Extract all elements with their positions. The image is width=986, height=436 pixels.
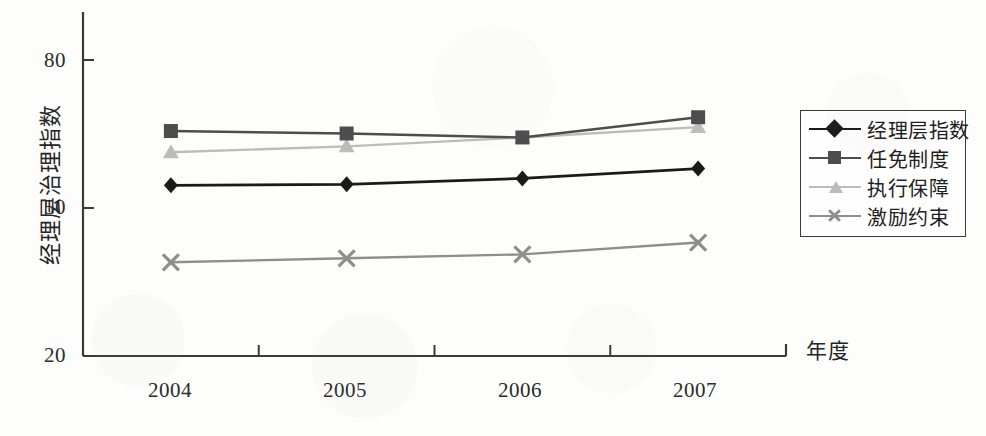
legend-marker-triangle-icon (809, 177, 861, 197)
legend-label-2: 执行保障 (867, 173, 949, 202)
series-line (171, 169, 698, 186)
legend-marker-square-icon (809, 148, 861, 168)
series-1 (164, 161, 705, 194)
x-tick-label-2007: 2007 (650, 378, 740, 403)
legend-item-1: 任免制度 (809, 145, 949, 171)
legend-item-3: 激励约束 (809, 203, 949, 229)
x-tick-label-2004: 2004 (125, 378, 215, 403)
data-point-marker (340, 176, 354, 192)
y-axis-title: 经理层治理指数 (32, 74, 64, 294)
x-axis-title: 年度 (806, 334, 850, 364)
data-point-marker (515, 130, 529, 144)
legend-label-1: 任免制度 (867, 144, 949, 173)
y-tick-label-80: 80 (6, 48, 66, 73)
legend-marker-diamond-icon (809, 119, 861, 139)
y-tick-label-20: 20 (6, 343, 66, 368)
chart-figure: 80 50 20 2004 2005 2006 2007 经理层治理指数 年度 … (0, 0, 986, 436)
legend-item-0: 经理层指数 (809, 116, 970, 142)
data-point-marker (164, 177, 178, 193)
legend-label-0: 经理层指数 (867, 115, 970, 144)
series-line (171, 117, 698, 137)
legend-label-3: 激励约束 (867, 202, 949, 231)
data-point-marker (691, 110, 705, 124)
legend-item-2: 执行保障 (809, 174, 949, 200)
data-point-marker (164, 124, 178, 138)
x-tick-label-2005: 2005 (300, 378, 390, 403)
data-point-marker (691, 161, 705, 177)
series-2 (164, 110, 705, 144)
legend-marker-x-icon (809, 206, 861, 226)
series-layer (163, 110, 706, 270)
x-axis-ticks (259, 345, 611, 356)
series-line (171, 243, 698, 263)
series-4 (163, 235, 706, 271)
legend: 经理层指数 任免制度 执行保障 激励约束 (800, 110, 966, 237)
x-tick-label-2006: 2006 (475, 378, 565, 403)
data-point-marker (515, 170, 529, 186)
data-point-marker (340, 127, 354, 141)
series-line (171, 127, 698, 152)
y-axis-ticks (83, 60, 94, 208)
